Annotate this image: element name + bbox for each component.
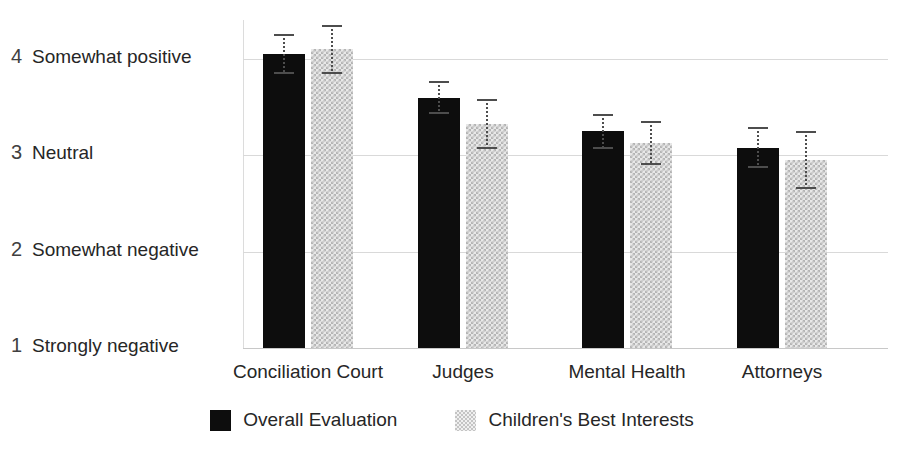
bar-attorneys-series-2 [785, 160, 827, 348]
bar-mental-health-series-2 [630, 143, 672, 348]
y-axis-tick-label: Neutral [32, 142, 93, 164]
x-axis-label-judges: Judges [432, 361, 493, 383]
legend-swatch-icon [455, 410, 476, 431]
x-axis-label-mental-health: Mental Health [568, 361, 685, 383]
error-bar-cap-top [477, 99, 497, 101]
error-bar-cap-top [322, 25, 342, 27]
x-axis-label-conciliation-court: Conciliation Court [233, 361, 383, 383]
y-axis-tick-label: Somewhat negative [32, 239, 199, 261]
error-bar-cap-top [274, 34, 294, 36]
error-bar-cap-top [796, 131, 816, 133]
legend-label: Overall Evaluation [243, 409, 397, 431]
bar-conciliation-court-series-1 [263, 54, 305, 348]
error-bar-cap-top [748, 127, 768, 129]
x-axis-line [243, 348, 888, 349]
y-axis-tick-number: 1 [0, 334, 22, 357]
bar-judges-series-2 [466, 124, 508, 348]
bar-mental-health-series-1 [582, 131, 624, 348]
y-axis-tick-label: Strongly negative [32, 335, 179, 357]
y-axis-tick-number: 2 [0, 238, 22, 261]
y-axis-tick-4: 4Somewhat positive [0, 45, 238, 68]
error-bar-cap-top [429, 81, 449, 83]
legend-swatch-icon [210, 410, 231, 431]
y-axis-tick-number: 4 [0, 45, 22, 68]
error-bar-cap-top [593, 114, 613, 116]
x-axis-label-attorneys: Attorneys [742, 361, 822, 383]
y-axis-tick-3: 3Neutral [0, 141, 238, 164]
legend-item-1[interactable]: Overall Evaluation [210, 409, 397, 431]
bar-chart: 4Somewhat positive3Neutral2Somewhat nega… [0, 0, 904, 455]
y-axis-tick-1: 1Strongly negative [0, 334, 238, 357]
y-axis-tick-2: 2Somewhat negative [0, 238, 238, 261]
bar-judges-series-1 [418, 98, 460, 348]
y-axis-tick-number: 3 [0, 141, 22, 164]
plot-area [243, 20, 888, 348]
bar-attorneys-series-1 [737, 148, 779, 348]
legend-item-2[interactable]: Children's Best Interests [455, 409, 693, 431]
y-axis-tick-label: Somewhat positive [32, 46, 191, 68]
bar-conciliation-court-series-2 [311, 49, 353, 348]
error-bar-cap-top [641, 121, 661, 123]
legend-label: Children's Best Interests [488, 409, 693, 431]
chart-legend: Overall EvaluationChildren's Best Intere… [0, 409, 904, 431]
